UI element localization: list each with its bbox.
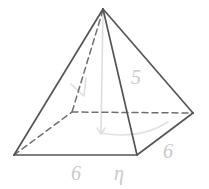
label-base-front-left: 6 — [71, 162, 81, 184]
pyramid-drawing-canvas: 6 η 6 5 — [0, 0, 209, 189]
pyramid-figure: 6 η 6 5 — [0, 0, 209, 189]
label-base-right-edge: 6 — [163, 140, 173, 162]
label-slant-height: 5 — [131, 66, 141, 88]
label-base-front-right: η — [114, 162, 124, 185]
